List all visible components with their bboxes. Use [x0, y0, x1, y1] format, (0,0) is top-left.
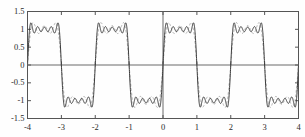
x-tick-label: 2: [221, 123, 241, 132]
x-tick-label: 1: [187, 123, 207, 132]
x-tick-label: -1: [119, 123, 139, 132]
figure-container: 1.510.50-0.5-1-1.5 -4-3-2-101234: [0, 0, 304, 137]
x-tick-label: 0: [153, 123, 173, 132]
x-tick-label: -2: [85, 123, 105, 132]
x-tick-label: -4: [18, 123, 38, 132]
y-tick-label: 1.5: [14, 7, 25, 16]
x-tick-label: 3: [255, 123, 275, 132]
x-tick-label: -3: [51, 123, 71, 132]
y-tick-label: -1.5: [11, 114, 24, 123]
chart-plot: [0, 0, 304, 137]
y-tick-label: 1: [20, 25, 24, 34]
y-tick-label: 0: [20, 61, 24, 70]
y-tick-label: -1: [17, 96, 24, 105]
y-tick-label: 0.5: [14, 43, 25, 52]
x-tick-label: 4: [289, 123, 305, 132]
y-tick-label: -0.5: [11, 78, 24, 87]
